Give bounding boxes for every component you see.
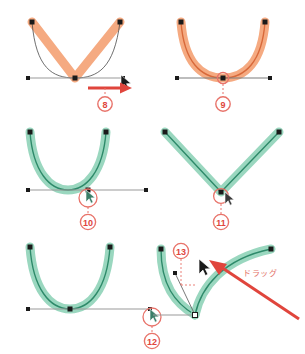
step-number-11: 11 bbox=[216, 218, 226, 228]
anchor-point-left-12[interactable] bbox=[28, 245, 33, 250]
cursor-arrow-icon-10 bbox=[86, 190, 95, 203]
anchor-point-right-9[interactable] bbox=[263, 20, 268, 25]
panel-step-8: 8 bbox=[0, 0, 152, 118]
anchor-point-left-10[interactable] bbox=[28, 130, 33, 135]
step-number-13: 13 bbox=[176, 247, 186, 257]
curve-green-highlight-10 bbox=[30, 132, 106, 190]
step-badge-9: 9 bbox=[216, 97, 230, 111]
handle-end-right-10[interactable] bbox=[144, 188, 148, 192]
step-badge-8: 8 bbox=[98, 97, 112, 111]
step-number-8: 8 bbox=[102, 100, 107, 110]
anchor-point-center-12[interactable] bbox=[68, 307, 73, 312]
curve-orange-highlight-8 bbox=[32, 22, 120, 78]
control-point-13[interactable] bbox=[173, 271, 177, 275]
handle-end-left-8[interactable] bbox=[26, 76, 30, 80]
anchor-point-center-8[interactable] bbox=[73, 76, 78, 81]
step-badge-13: 13 bbox=[173, 243, 188, 258]
anchor-point-left-9[interactable] bbox=[179, 20, 184, 25]
panel-step-12: 12 bbox=[0, 237, 165, 354]
drag-annotation-label: ドラッグ bbox=[243, 267, 277, 278]
anchor-point-center-11[interactable] bbox=[219, 190, 224, 195]
anchor-point-right-12[interactable] bbox=[108, 245, 113, 250]
step-badge-11: 11 bbox=[213, 214, 228, 229]
anchor-point-right-13[interactable] bbox=[269, 247, 274, 252]
curve-green-stroke-12 bbox=[30, 247, 110, 309]
curve-orange-highlight-9 bbox=[181, 22, 265, 78]
handle-end-left-9[interactable] bbox=[175, 76, 179, 80]
cursor-arrow-icon-13 bbox=[199, 259, 210, 276]
step-number-9: 9 bbox=[220, 100, 225, 110]
anchor-point-left-13[interactable] bbox=[159, 247, 164, 252]
curve-green-highlight-13-right bbox=[195, 249, 271, 315]
curve-green-stroke-11 bbox=[165, 132, 279, 192]
handle-end-right-9[interactable] bbox=[268, 76, 272, 80]
anchor-point-center-13[interactable] bbox=[193, 313, 198, 318]
anchor-point-center-9[interactable] bbox=[221, 76, 226, 81]
panel-step-10: 10 bbox=[0, 120, 152, 235]
cursor-arrow-icon-11 bbox=[225, 192, 234, 205]
curve-green-stroke-10 bbox=[30, 132, 106, 190]
step-badge-10: 10 bbox=[80, 214, 95, 229]
curve-green-highlight-11 bbox=[165, 132, 279, 192]
handle-end-left-10[interactable] bbox=[26, 188, 30, 192]
anchor-point-right-8[interactable] bbox=[118, 20, 123, 25]
panel-step-11: 11 bbox=[153, 120, 305, 235]
curve-green-highlight-12 bbox=[30, 247, 110, 309]
step-number-10: 10 bbox=[83, 218, 93, 228]
panel-step-9: 9 bbox=[153, 0, 305, 118]
panel-step-13: 13 ドラッグ bbox=[153, 237, 305, 354]
figure-canvas: 8 9 bbox=[0, 0, 305, 354]
handle-end-left-12[interactable] bbox=[26, 307, 30, 311]
anchor-point-left-11[interactable] bbox=[163, 130, 168, 135]
anchor-point-left-8[interactable] bbox=[30, 20, 35, 25]
anchor-point-right-11[interactable] bbox=[277, 130, 282, 135]
anchor-point-right-10[interactable] bbox=[104, 130, 109, 135]
